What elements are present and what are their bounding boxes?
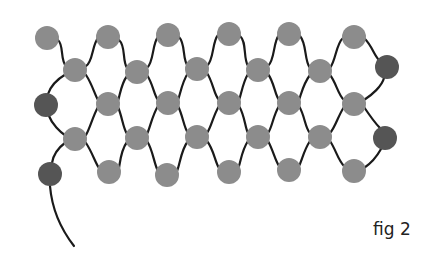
thread-segment bbox=[364, 78, 384, 100]
thread-segment bbox=[147, 37, 158, 68]
thread-segment bbox=[58, 40, 66, 66]
thread-segment bbox=[299, 141, 310, 166]
thread-segment bbox=[268, 74, 279, 100]
bead-light bbox=[308, 59, 332, 83]
thread-segment bbox=[240, 36, 248, 66]
bead-light bbox=[156, 23, 180, 47]
bead-light bbox=[217, 91, 241, 115]
thread-segment bbox=[299, 75, 310, 100]
bead-light bbox=[96, 25, 120, 49]
bead-light bbox=[277, 22, 301, 46]
thread-segment bbox=[364, 107, 380, 128]
thread-segment bbox=[330, 141, 344, 166]
thread-segment bbox=[118, 76, 127, 101]
bead-light bbox=[156, 91, 180, 115]
bead-dark bbox=[373, 126, 397, 150]
thread-segment bbox=[118, 107, 127, 134]
bead-light bbox=[277, 91, 301, 115]
thread-segment bbox=[49, 116, 66, 136]
thread-segment bbox=[119, 40, 127, 68]
thread-segment bbox=[50, 186, 74, 246]
bead-light bbox=[342, 159, 366, 183]
bead-dark bbox=[375, 55, 399, 79]
thread-segment bbox=[178, 106, 188, 133]
thread-segment bbox=[177, 141, 188, 171]
thread-segment bbox=[330, 75, 344, 100]
bead-light bbox=[217, 160, 241, 184]
thread-segment bbox=[365, 39, 379, 60]
thread-segment bbox=[330, 107, 344, 133]
thread-segment bbox=[207, 73, 219, 100]
thread-segment bbox=[330, 38, 343, 68]
thread-segment bbox=[52, 142, 66, 163]
thread-segment bbox=[299, 106, 310, 133]
bead-light bbox=[63, 127, 87, 151]
thread-segment bbox=[239, 141, 248, 166]
bead-light bbox=[342, 25, 366, 49]
thread-segment bbox=[179, 37, 188, 66]
bead-light bbox=[185, 125, 209, 149]
bead-light bbox=[246, 125, 270, 149]
bead-light bbox=[97, 160, 121, 184]
bead-light bbox=[125, 60, 149, 84]
thread-segment bbox=[207, 35, 218, 66]
thread-segment bbox=[147, 75, 158, 100]
thread-segment bbox=[86, 38, 98, 66]
thread-segment bbox=[239, 74, 248, 100]
bead-light bbox=[155, 163, 179, 187]
thread-path bbox=[48, 35, 384, 246]
bead-light bbox=[63, 58, 87, 82]
bead-dark bbox=[34, 93, 58, 117]
thread-segment bbox=[48, 74, 66, 94]
thread-segment bbox=[147, 106, 158, 134]
bead-light bbox=[246, 58, 270, 82]
thread-segment bbox=[147, 141, 158, 171]
figure-caption: fig 2 bbox=[373, 219, 411, 239]
thread-segment bbox=[239, 106, 248, 133]
bead-light bbox=[277, 158, 301, 182]
bead-light bbox=[308, 125, 332, 149]
thread-segment bbox=[86, 143, 99, 168]
thread-segment bbox=[207, 141, 219, 168]
thread-segment bbox=[86, 75, 98, 100]
bead-light bbox=[35, 26, 59, 50]
thread-segment bbox=[364, 149, 381, 168]
bead-light bbox=[96, 92, 120, 116]
bead-light bbox=[185, 57, 209, 81]
thread-segment bbox=[268, 141, 279, 166]
bead-light bbox=[342, 92, 366, 116]
thread-segment bbox=[207, 106, 219, 133]
beadwork-diagram bbox=[0, 0, 431, 261]
thread-segment bbox=[268, 35, 279, 66]
thread-segment bbox=[300, 36, 310, 68]
thread-segment bbox=[119, 142, 127, 168]
thread-segment bbox=[268, 106, 279, 133]
thread-segment bbox=[86, 107, 98, 135]
bead-dark bbox=[38, 162, 62, 186]
bead-light bbox=[125, 126, 149, 150]
bead-light bbox=[217, 22, 241, 46]
thread-segment bbox=[178, 73, 188, 100]
